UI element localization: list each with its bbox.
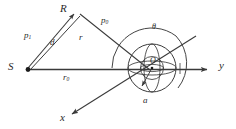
sphere-center-dot [151,67,154,70]
label-r0: r0 [63,73,69,83]
label-d: d [50,38,55,47]
label-r: r [79,33,83,42]
label-theta: θ [152,23,156,31]
segment-d [30,16,80,70]
scattering-geometry-figure: S R p1 d r p0 r0 θ O a y x [0,0,236,129]
label-p0: p0 [101,16,108,26]
label-sphere-center-O: O [150,57,156,65]
diagram-canvas [0,0,236,129]
label-receiver-R: R [60,3,67,14]
theta-arc-lower [176,36,187,88]
label-p1: p1 [24,31,31,41]
label-source-S: S [8,61,14,72]
label-axis-y: y [219,60,224,71]
label-sphere-radius-a: a [143,96,148,105]
x-axis-line [72,36,196,114]
source-point-dot [26,67,31,72]
label-axis-x: x [60,112,65,123]
